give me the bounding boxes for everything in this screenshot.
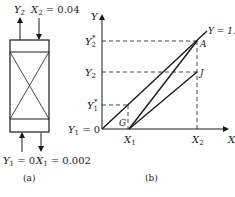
tick-x1: X1	[123, 134, 136, 147]
absorption-column	[10, 40, 49, 132]
caption-b: (b)	[145, 173, 158, 183]
tick-y1: Y1 = 0	[68, 124, 100, 137]
tick-y2: Y2	[85, 67, 96, 80]
label-x1: X1 = 0.002	[35, 155, 91, 168]
figure: Y2 X2 = 0.04 Y1 = 0 X1 = 0.002 (a) Y X Y…	[0, 0, 235, 197]
tick-y1-star: Y1*	[87, 98, 98, 113]
label-x2: X2 = 0.04	[30, 4, 80, 17]
tick-x2: X2	[191, 134, 204, 147]
operating-line-ga	[129, 41, 197, 129]
x-axis-label: X	[227, 134, 235, 145]
label-y1: Y1 = 0	[3, 155, 35, 168]
point-j-label: J	[198, 68, 205, 78]
point-g-label: G	[119, 118, 126, 128]
point-a-label: A	[199, 39, 207, 49]
operating-line-gj	[129, 72, 197, 129]
equilibrium-line	[102, 31, 207, 129]
y-axis-label: Y	[91, 11, 99, 22]
line-equation-label: Y = 1.3	[208, 26, 235, 36]
tick-y2-star: Y2*	[85, 34, 96, 49]
caption-a: (a)	[23, 173, 35, 183]
label-y2: Y2	[14, 4, 26, 17]
